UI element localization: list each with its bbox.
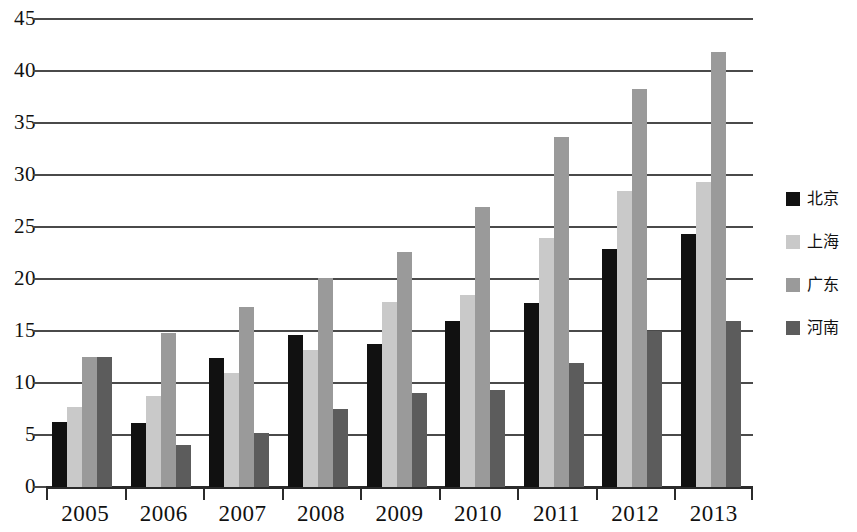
bar-河南-2013 (726, 321, 741, 489)
x-tick-mark (517, 489, 519, 500)
bar-广东-2009 (397, 252, 412, 489)
bar-河南-2008 (333, 409, 348, 489)
x-tick-label-2010: 2010 (439, 500, 517, 528)
x-tick-mark (751, 489, 753, 500)
legend-item-河南[interactable]: 河南 (786, 319, 839, 337)
bar-广东-2008 (318, 278, 333, 489)
bar-上海-2006 (146, 396, 161, 489)
bar-上海-2008 (303, 350, 318, 489)
bar-group-2012 (602, 0, 662, 489)
bar-group-2009 (367, 0, 427, 489)
y-tick-mark (33, 382, 46, 384)
legend-label: 上海 (807, 233, 839, 251)
x-tick-label-2005: 2005 (46, 500, 124, 528)
y-tick-mark (33, 226, 46, 228)
legend-label: 广东 (807, 276, 839, 294)
bars-layer (46, 0, 753, 489)
bar-广东-2005 (82, 357, 97, 489)
bar-广东-2007 (239, 307, 254, 489)
bar-北京-2012 (602, 249, 617, 489)
x-tick-mark (439, 489, 441, 500)
y-tick-label: 15 (2, 320, 36, 341)
y-tick-mark (33, 122, 46, 124)
bar-河南-2005 (97, 357, 112, 489)
bar-group-2007 (209, 0, 269, 489)
bar-河南-2009 (412, 393, 427, 489)
x-tick-mark (360, 489, 362, 500)
bar-group-2008 (288, 0, 348, 489)
x-tick-label-2009: 2009 (361, 500, 439, 528)
y-tick-mark (33, 70, 46, 72)
bar-上海-2007 (224, 373, 239, 489)
legend-label: 河南 (807, 319, 839, 337)
y-tick-label: 30 (2, 164, 36, 185)
bar-北京-2009 (367, 344, 382, 489)
y-tick-label: 10 (2, 372, 36, 393)
bar-上海-2012 (617, 191, 632, 489)
bar-上海-2005 (67, 407, 82, 489)
y-tick-label: 45 (2, 8, 36, 29)
bar-北京-2007 (209, 358, 224, 489)
x-tick-label-2008: 2008 (282, 500, 360, 528)
bar-河南-2006 (176, 445, 191, 489)
x-tick-mark (46, 489, 48, 500)
bar-上海-2010 (460, 295, 475, 489)
legend-item-北京[interactable]: 北京 (786, 190, 839, 208)
bar-北京-2005 (52, 422, 67, 489)
x-tick-label-2007: 2007 (203, 500, 281, 528)
bar-广东-2010 (475, 207, 490, 489)
x-axis-tick-labels: 200520062007200820092010201120122013 (46, 500, 753, 532)
bar-group-2013 (681, 0, 741, 489)
y-tick-label: 25 (2, 216, 36, 237)
bar-chart: 051015202530354045 200520062007200820092… (0, 0, 857, 532)
bar-广东-2011 (554, 137, 569, 489)
legend-item-上海[interactable]: 上海 (786, 233, 839, 251)
y-tick-label: 5 (2, 424, 36, 445)
x-tick-label-2012: 2012 (596, 500, 674, 528)
bar-group-2006 (131, 0, 191, 489)
x-tick-label-2011: 2011 (518, 500, 596, 528)
x-tick-mark (125, 489, 127, 500)
legend-swatch-icon (786, 278, 800, 292)
legend-swatch-icon (786, 321, 800, 335)
x-tick-mark (203, 489, 205, 500)
bar-北京-2011 (524, 303, 539, 489)
bar-河南-2012 (647, 331, 662, 489)
bar-广东-2013 (711, 52, 726, 489)
legend-swatch-icon (786, 192, 800, 206)
x-tick-mark (596, 489, 598, 500)
y-tick-mark (33, 434, 46, 436)
legend: 北京上海广东河南 (786, 190, 857, 350)
y-tick-label: 20 (2, 268, 36, 289)
y-tick-mark (33, 278, 46, 280)
legend-item-广东[interactable]: 广东 (786, 276, 839, 294)
bar-group-2010 (445, 0, 505, 489)
y-axis-tick-labels: 051015202530354045 (0, 0, 36, 500)
legend-label: 北京 (807, 190, 839, 208)
bar-上海-2011 (539, 238, 554, 489)
y-tick-mark (33, 330, 46, 332)
x-tick-mark (674, 489, 676, 500)
bar-group-2005 (52, 0, 112, 489)
y-tick-label: 0 (2, 476, 36, 497)
bar-广东-2006 (161, 333, 176, 489)
bar-上海-2013 (696, 182, 711, 489)
x-tick-mark (282, 489, 284, 500)
legend-swatch-icon (786, 235, 800, 249)
bar-广东-2012 (632, 89, 647, 489)
bar-北京-2006 (131, 423, 146, 489)
y-tick-mark (33, 174, 46, 176)
bar-河南-2010 (490, 390, 505, 489)
bar-北京-2010 (445, 321, 460, 489)
bar-上海-2009 (382, 302, 397, 489)
y-tick-label: 35 (2, 112, 36, 133)
bar-group-2011 (524, 0, 584, 489)
y-tick-label: 40 (2, 60, 36, 81)
bar-北京-2013 (681, 234, 696, 489)
plot-area (46, 0, 753, 489)
bar-河南-2011 (569, 363, 584, 489)
x-axis-line (46, 487, 753, 489)
y-tick-mark (33, 486, 46, 488)
y-tick-mark (33, 18, 46, 20)
x-tick-label-2013: 2013 (675, 500, 753, 528)
